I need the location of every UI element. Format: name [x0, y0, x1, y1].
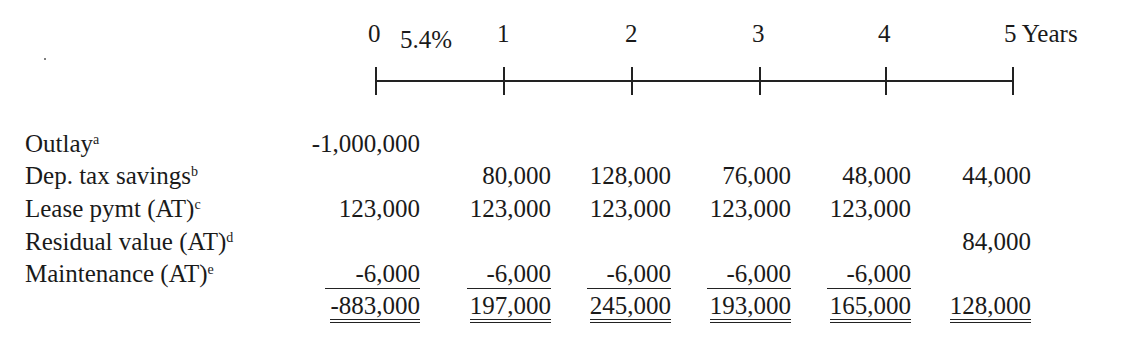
tick-label-4: 4 [878, 21, 891, 46]
cell-dep-5: 44,000 [891, 162, 1031, 190]
value: -6,000 [325, 260, 420, 289]
cell-maint-0: -6,000 [280, 260, 420, 288]
label-text: Residual value (AT) [25, 228, 226, 255]
tick-label-0: 0 [368, 21, 381, 46]
cell-lease-4: 123,000 [771, 195, 911, 223]
cell-total-4: 165,000 [771, 292, 911, 320]
cell-dep-2: 128,000 [531, 162, 671, 190]
cell-total-0: -883,000 [280, 292, 420, 320]
footnote-marker: d [226, 230, 233, 245]
cell-dep-1: 80,000 [411, 162, 551, 190]
footnote-marker: e [208, 262, 214, 277]
cell-lease-1: 123,000 [411, 195, 551, 223]
cell-total-2: 245,000 [531, 292, 671, 320]
cell-maint-1: -6,000 [411, 260, 551, 288]
row-label-residual-value: Residual value (AT)d [25, 228, 233, 256]
footnote-marker: c [194, 197, 200, 212]
row-label-outlay: Outlaya [25, 130, 99, 158]
cell-maint-3: -6,000 [651, 260, 791, 288]
label-text: Lease pymt (AT) [25, 195, 194, 222]
footnote-marker: a [93, 132, 99, 147]
total-value: 128,000 [950, 292, 1031, 323]
value: -6,000 [827, 260, 911, 289]
discount-rate-label: 5.4% [400, 27, 452, 52]
tick-mark-4 [885, 67, 887, 95]
row-label-lease-pymt: Lease pymt (AT)c [25, 195, 201, 223]
cell-total-3: 193,000 [651, 292, 791, 320]
cell-lease-0: 123,000 [280, 195, 420, 223]
row-label-dep-tax-savings: Dep. tax savingsb [25, 162, 198, 190]
row-label-maintenance: Maintenance (AT)e [25, 260, 214, 288]
cell-lease-2: 123,000 [531, 195, 671, 223]
label-text: Maintenance (AT) [25, 260, 208, 287]
footnote-marker: b [191, 164, 198, 179]
timeline-axis [376, 80, 1013, 82]
cell-lease-3: 123,000 [651, 195, 791, 223]
label-text: Dep. tax savings [25, 162, 191, 189]
tick-mark-3 [759, 67, 761, 95]
tick-label-1: 1 [497, 21, 510, 46]
tick-mark-0 [375, 67, 377, 95]
cell-dep-4: 48,000 [771, 162, 911, 190]
tick-mark-1 [503, 67, 505, 95]
tick-label-3: 3 [752, 21, 765, 46]
total-value: -883,000 [330, 292, 420, 323]
tick-mark-2 [631, 67, 633, 95]
tick-label-5: 5 Years [1004, 21, 1078, 46]
label-text: Outlay [25, 130, 93, 157]
cell-total-1: 197,000 [411, 292, 551, 320]
cell-residual-5: 84,000 [891, 228, 1031, 256]
cell-outlay-0: -1,000,000 [280, 130, 420, 158]
cell-dep-3: 76,000 [651, 162, 791, 190]
cell-maint-2: -6,000 [531, 260, 671, 288]
tick-label-2: 2 [625, 21, 638, 46]
cell-maint-4: -6,000 [771, 260, 911, 288]
stray-dot [44, 58, 46, 60]
cell-total-5: 128,000 [891, 292, 1031, 320]
tick-mark-5 [1012, 67, 1014, 95]
